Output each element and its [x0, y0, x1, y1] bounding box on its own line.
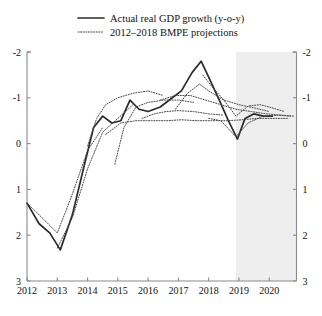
x-tick-label: 2014: [78, 285, 98, 296]
x-tick-label: 2012: [17, 285, 37, 296]
y-tick-label-left: 0: [16, 138, 21, 149]
series-line-actual: [27, 61, 272, 250]
y-tick-label-left: 2: [16, 230, 21, 241]
series-line-projection: [27, 128, 103, 233]
y-tick-label-right: 3: [303, 276, 308, 287]
forecast-shaded-region: [236, 52, 297, 281]
chart-canvas: 33221100-1-1-2-2201220132014201520162017…: [0, 0, 322, 316]
series-line-projection: [142, 111, 224, 119]
x-tick-label: 2016: [138, 285, 158, 296]
y-tick-label-right: 0: [303, 138, 308, 149]
y-tick-label-left: -1: [13, 92, 21, 103]
legend-label-2: 2012–2018 BMPE projections: [110, 27, 238, 38]
x-tick-label: 2018: [199, 285, 219, 296]
x-tick-label: 2019: [229, 285, 249, 296]
y-tick-label-right: -2: [303, 47, 311, 58]
series-line-projection: [88, 91, 164, 146]
y-tick-label-left: 1: [16, 184, 21, 195]
chart-figure: 33221100-1-1-2-2201220132014201520162017…: [0, 0, 322, 316]
legend-label-1: Actual real GDP growth (y-o-y): [110, 13, 245, 25]
y-tick-label-right: -1: [303, 92, 311, 103]
y-tick-label-right: 2: [303, 230, 308, 241]
x-tick-label: 2015: [108, 285, 128, 296]
y-tick-label-right: 1: [303, 184, 308, 195]
x-tick-label: 2013: [47, 285, 67, 296]
x-tick-label: 2017: [168, 285, 188, 296]
x-tick-label: 2020: [259, 285, 279, 296]
y-tick-label-left: -2: [13, 47, 21, 58]
